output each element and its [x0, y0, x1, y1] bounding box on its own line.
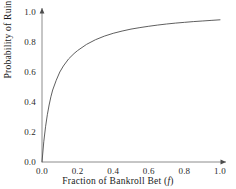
ruin-probability-curve [42, 20, 220, 162]
y-tick-label: 0.6 [14, 67, 36, 77]
y-tick-label: 0.0 [14, 157, 36, 167]
x-tick-label: 1.0 [214, 166, 226, 176]
x-axis-arrowhead [221, 160, 227, 165]
x-tick-label: 0.8 [178, 166, 190, 176]
x-axis-title-text: Fraction of Bankroll Bet ( [62, 176, 167, 186]
x-tick-label: 0.0 [36, 166, 48, 176]
y-tick-label: 1.0 [14, 7, 36, 17]
x-tick-label: 0.2 [72, 166, 84, 176]
axes-group [40, 8, 226, 164]
ruin-probability-chart: 0.00.20.40.60.81.0 0.00.20.40.60.81.0 Fr… [0, 0, 236, 189]
y-axis-title: Probability of Ruin [3, 0, 14, 100]
x-tick-label: 0.4 [107, 166, 119, 176]
y-axis-arrowhead [40, 8, 45, 14]
y-tick-label: 0.4 [14, 97, 36, 107]
x-axis-title: Fraction of Bankroll Bet (f) [0, 176, 236, 187]
y-tick-label: 0.2 [14, 127, 36, 137]
y-tick-label: 0.8 [14, 37, 36, 47]
x-axis-title-tail: ) [170, 176, 173, 186]
x-tick-label: 0.6 [143, 166, 155, 176]
